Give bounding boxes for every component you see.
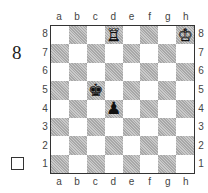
square-b4 — [69, 100, 87, 118]
square-e4 — [123, 100, 141, 118]
square-f5 — [140, 81, 158, 99]
square-a2 — [51, 136, 69, 154]
file-label-top-e: e — [123, 11, 141, 22]
file-label-bottom-f: f — [141, 176, 159, 187]
file-label-top-a: a — [50, 11, 68, 22]
rank-label-left-5: 5 — [40, 84, 50, 95]
square-a7 — [51, 44, 69, 62]
square-c4 — [87, 100, 105, 118]
file-label-top-g: g — [159, 11, 177, 22]
rank-label-left-3: 3 — [40, 121, 50, 132]
file-label-bottom-e: e — [123, 176, 141, 187]
square-a3 — [51, 118, 69, 136]
square-c1 — [87, 155, 105, 173]
black-king-icon: ♚ — [88, 82, 103, 99]
square-a1 — [51, 155, 69, 173]
square-f8 — [140, 26, 158, 44]
square-d2 — [105, 136, 123, 154]
square-c8 — [87, 26, 105, 44]
square-e2 — [123, 136, 141, 154]
file-label-top-f: f — [141, 11, 159, 22]
rank-label-left-1: 1 — [40, 158, 50, 169]
square-h4 — [176, 100, 194, 118]
chess-board: ♖♔♚♟ — [50, 25, 195, 174]
square-f2 — [140, 136, 158, 154]
square-d6 — [105, 63, 123, 81]
square-c5: ♚ — [87, 81, 105, 99]
square-e5 — [123, 81, 141, 99]
square-h5 — [176, 81, 194, 99]
square-g3 — [158, 118, 176, 136]
square-b6 — [69, 63, 87, 81]
file-label-bottom-h: h — [177, 176, 195, 187]
square-g1 — [158, 155, 176, 173]
square-b3 — [69, 118, 87, 136]
square-c3 — [87, 118, 105, 136]
square-f4 — [140, 100, 158, 118]
square-b1 — [69, 155, 87, 173]
square-h1 — [176, 155, 194, 173]
square-g2 — [158, 136, 176, 154]
square-a8 — [51, 26, 69, 44]
square-c6 — [87, 63, 105, 81]
rank-label-left-8: 8 — [40, 28, 50, 39]
square-e7 — [123, 44, 141, 62]
square-b8 — [69, 26, 87, 44]
rank-label-right-3: 3 — [196, 121, 206, 132]
square-g8 — [158, 26, 176, 44]
rank-label-right-8: 8 — [196, 28, 206, 39]
square-a5 — [51, 81, 69, 99]
white-rook-icon: ♖ — [106, 27, 121, 44]
file-label-bottom-d: d — [104, 176, 122, 187]
rank-label-left-2: 2 — [40, 140, 50, 151]
square-e3 — [123, 118, 141, 136]
square-d8: ♖ — [105, 26, 123, 44]
square-f6 — [140, 63, 158, 81]
file-label-top-h: h — [177, 11, 195, 22]
file-label-bottom-b: b — [68, 176, 86, 187]
square-c7 — [87, 44, 105, 62]
square-h6 — [176, 63, 194, 81]
square-h2 — [176, 136, 194, 154]
square-b5 — [69, 81, 87, 99]
rank-label-right-7: 7 — [196, 47, 206, 58]
square-h3 — [176, 118, 194, 136]
square-g7 — [158, 44, 176, 62]
rank-label-left-4: 4 — [40, 103, 50, 114]
rank-label-right-5: 5 — [196, 84, 206, 95]
file-label-bottom-g: g — [159, 176, 177, 187]
square-d5 — [105, 81, 123, 99]
file-label-bottom-c: c — [86, 176, 104, 187]
square-d3 — [105, 118, 123, 136]
square-e6 — [123, 63, 141, 81]
square-b7 — [69, 44, 87, 62]
square-e1 — [123, 155, 141, 173]
file-label-top-b: b — [68, 11, 86, 22]
square-a4 — [51, 100, 69, 118]
square-b2 — [69, 136, 87, 154]
rank-label-right-6: 6 — [196, 65, 206, 76]
square-e8 — [123, 26, 141, 44]
file-label-top-c: c — [86, 11, 104, 22]
rank-label-right-2: 2 — [196, 140, 206, 151]
file-label-top-d: d — [104, 11, 122, 22]
square-c2 — [87, 136, 105, 154]
square-d7 — [105, 44, 123, 62]
square-f7 — [140, 44, 158, 62]
square-g4 — [158, 100, 176, 118]
rank-label-left-6: 6 — [40, 65, 50, 76]
square-h7 — [176, 44, 194, 62]
black-pawn-icon: ♟ — [106, 100, 121, 117]
file-label-bottom-a: a — [50, 176, 68, 187]
square-a6 — [51, 63, 69, 81]
diagram-number: 8 — [12, 42, 22, 64]
square-h8: ♔ — [176, 26, 194, 44]
square-f1 — [140, 155, 158, 173]
white-king-icon: ♔ — [177, 27, 192, 44]
square-d1 — [105, 155, 123, 173]
side-to-move-white-icon — [11, 157, 24, 170]
square-g5 — [158, 81, 176, 99]
square-f3 — [140, 118, 158, 136]
rank-label-right-4: 4 — [196, 103, 206, 114]
rank-label-left-7: 7 — [40, 47, 50, 58]
